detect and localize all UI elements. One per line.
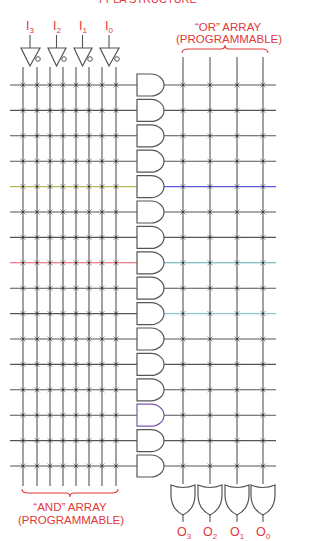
fuse-dot [49,440,51,442]
fuse-dot [262,135,264,137]
or-gate-icon [251,485,275,515]
fuse-dot [49,211,51,213]
input-label: I0 [99,20,119,37]
fuse-dot [49,135,51,137]
fuse-dot [115,287,117,289]
fuse-dot [75,109,77,111]
and-gate-icon [137,455,164,477]
fuse-dot [62,389,64,391]
fuse-dot [36,465,38,467]
fuse-dot [236,160,238,162]
fuse-dot [88,211,90,213]
fuse-dot [49,160,51,162]
input-label: I1 [73,20,93,37]
fuse-dot [115,135,117,137]
fuse-dot [36,389,38,391]
fuse-dot [22,465,24,467]
and-gate-icon [137,303,164,325]
fuse-dot [236,236,238,238]
fuse-dot [88,186,90,188]
fuse-dot [75,186,77,188]
and-gate-icon [137,150,164,172]
fuse-dot [49,313,51,315]
fuse-dot [49,465,51,467]
fuse-dot [36,262,38,264]
fuse-dot [182,186,184,188]
fuse-dot [22,363,24,365]
fuse-dot [236,440,238,442]
fuse-dot [115,186,117,188]
fuse-dot [62,186,64,188]
fuse-dot [36,135,38,137]
and-gate-icon [137,176,164,198]
fuse-dot [262,186,264,188]
fuse-dot [209,313,211,315]
fuse-dot [101,414,103,416]
or-array-label-line2: (PROGRAMMABLE) [176,33,280,45]
fuse-dot [209,84,211,86]
fuse-dot [236,338,238,340]
fuse-dot [182,84,184,86]
fuse-dot [209,389,211,391]
fuse-dot [209,186,211,188]
fuse-dot [88,160,90,162]
output-label: O2 [200,526,220,541]
fuse-dot [22,160,24,162]
fuse-dot [62,363,64,365]
fuse-dot [101,440,103,442]
fuse-dot [62,236,64,238]
fuse-dot [75,465,77,467]
fuse-dot [262,389,264,391]
fuse-dot [62,313,64,315]
fuse-dot [62,160,64,162]
fuse-dot [75,84,77,86]
fuse-dot [22,186,24,188]
fuse-dot [75,363,77,365]
fuse-dot [49,287,51,289]
fuse-dot [262,338,264,340]
fuse-dot [49,414,51,416]
fuse-dot [88,440,90,442]
fuse-dot [236,465,238,467]
fuse-dot [62,414,64,416]
fuse-dot [36,109,38,111]
fuse-dot [22,287,24,289]
fuse-dot [182,211,184,213]
fuse-dot [22,262,24,264]
fuse-dot [236,313,238,315]
inversion-bubble-icon [62,57,67,62]
fuse-dot [75,389,77,391]
fuse-dot [115,465,117,467]
fuse-dot [22,135,24,137]
fuse-dot [182,414,184,416]
fuse-dot [101,287,103,289]
fuse-dot [49,236,51,238]
inversion-bubble-icon [115,57,120,62]
fuse-dot [75,338,77,340]
fuse-dot [88,313,90,315]
fuse-dot [182,236,184,238]
fuse-dot [115,389,117,391]
fuse-dot [182,287,184,289]
fuse-dot [22,109,24,111]
fuse-dot [22,338,24,340]
fuse-dot [115,313,117,315]
fuse-dot [101,211,103,213]
inversion-bubble-icon [88,57,93,62]
fuse-dot [115,363,117,365]
fuse-dot [101,313,103,315]
fuse-dot [22,84,24,86]
output-label: O1 [227,526,247,541]
and-array-brace [22,489,118,497]
fuse-dot [75,287,77,289]
fuse-dot [88,262,90,264]
fuse-dot [262,440,264,442]
fuse-dot [236,414,238,416]
fuse-dot [88,414,90,416]
input-label: I2 [47,20,67,37]
fuse-dot [49,389,51,391]
fuse-dot [88,465,90,467]
fuse-dot [182,109,184,111]
fuse-dot [115,84,117,86]
fuse-dot [262,262,264,264]
